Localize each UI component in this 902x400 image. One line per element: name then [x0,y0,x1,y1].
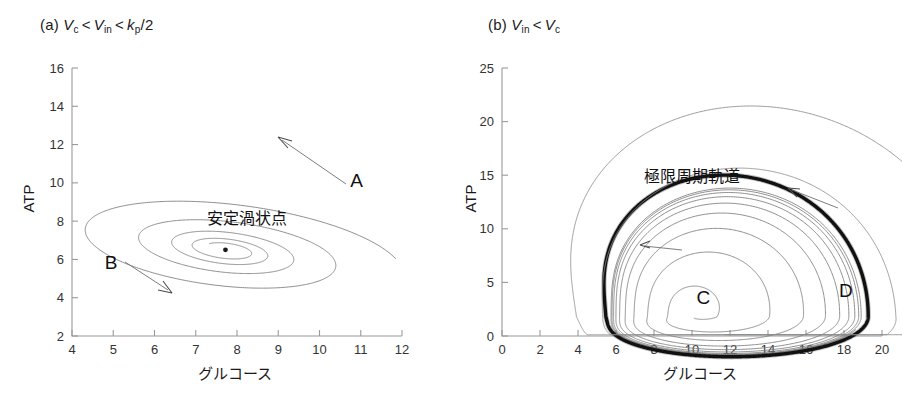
y-tick-label: 12 [50,137,64,152]
x-tick-label: 0 [498,342,505,357]
figure-container: (a) Vc<Vin<kp/2 ATP グルコース 24681012141645… [0,0,902,400]
x-tick-label: 6 [151,342,158,357]
y-tick-label: 20 [480,114,494,129]
x-tick-label: 9 [275,342,282,357]
x-tick-label: 5 [110,342,117,357]
panel-b-plot: 051015202502468101214161820DC極限周期軌道 [440,0,902,400]
x-tick-label: 12 [395,342,409,357]
panel-b: (b) Vin<Vc ATP グルコース 0510152025024681012… [440,0,902,400]
y-tick-label: 10 [50,175,64,190]
y-tick-label: 14 [50,99,64,114]
stable-spiral-label: 安定渦状点 [207,210,287,227]
x-tick-label: 8 [233,342,240,357]
label-a: A [350,170,363,191]
stable-focus-marker [223,247,228,252]
x-tick-label: 10 [312,342,326,357]
y-tick-label: 0 [487,329,494,344]
arrow-inner-b-head [640,241,650,248]
y-tick-label: 2 [57,329,64,344]
y-tick-label: 16 [50,61,64,76]
label-c: C [697,287,711,308]
label-b: B [105,252,118,273]
y-tick-label: 5 [487,275,494,290]
y-tick-label: 25 [480,61,494,76]
y-tick-label: 10 [480,221,494,236]
panel-a: (a) Vc<Vin<kp/2 ATP グルコース 24681012141645… [0,0,440,400]
arrow-a-line [282,140,346,184]
x-tick-label: 20 [875,342,889,357]
panel-a-plot: 246810121416456789101112AB安定渦状点 [0,0,440,400]
arrow-b-head [158,281,172,293]
x-tick-label: 6 [612,342,619,357]
y-tick-label: 6 [57,252,64,267]
x-tick-label: 11 [354,342,368,357]
y-tick-label: 15 [480,168,494,183]
x-tick-label: 4 [574,342,581,357]
limit-cycle-label: 極限周期軌道 [644,168,740,185]
label-d: D [839,280,853,301]
x-tick-label: 7 [192,342,199,357]
x-tick-label: 4 [68,342,75,357]
arrow-b-line [125,262,168,290]
y-tick-label: 8 [57,214,64,229]
axis-lines [72,68,402,336]
y-tick-label: 4 [57,290,64,305]
x-tick-label: 2 [536,342,543,357]
